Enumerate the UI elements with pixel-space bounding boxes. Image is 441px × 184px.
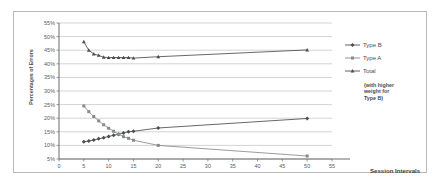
x-tick-label: 15: [123, 163, 143, 169]
chart-plot-frame: 5%10%15%20%25%30%35%40%45%50%55%05101520…: [13, 11, 427, 173]
y-tick-label: 10%: [19, 142, 55, 148]
chart-figure: 5%10%15%20%25%30%35%40%45%50%55%05101520…: [0, 0, 441, 184]
series-type-b: [82, 116, 309, 143]
data-point-marker: [87, 139, 91, 143]
x-tick-label: 35: [223, 163, 243, 169]
y-tick-label: 40%: [19, 61, 55, 67]
series-line: [84, 118, 307, 141]
data-point-marker: [132, 139, 135, 142]
data-point-marker: [112, 133, 116, 137]
x-tick-label: 5: [74, 163, 94, 169]
data-point-marker: [92, 115, 95, 118]
data-point-marker: [82, 104, 85, 107]
legend-marker-icon: [344, 41, 361, 49]
x-axis-title: Session Intervals: [370, 167, 420, 174]
y-tick-label: 45%: [19, 47, 55, 53]
x-tick-label: 30: [198, 163, 218, 169]
series-total: [82, 40, 309, 60]
data-point-marker: [351, 56, 354, 59]
data-point-marker: [306, 155, 309, 158]
data-point-marker: [97, 119, 100, 122]
legend-item-type-b[interactable]: Type B: [344, 38, 441, 51]
data-point-marker: [112, 130, 115, 133]
y-tick-label: 30%: [19, 88, 55, 94]
data-point-marker: [107, 127, 110, 130]
legend-item-type-a[interactable]: Type A: [344, 51, 441, 64]
data-point-marker: [351, 43, 355, 47]
data-point-marker: [87, 110, 90, 113]
legend-label: Type B: [363, 42, 382, 48]
data-point-marker: [82, 140, 86, 144]
data-point-marker: [82, 40, 86, 43]
x-tick-label: 50: [297, 163, 317, 169]
data-point-marker: [305, 116, 309, 120]
legend-label: Total: [363, 68, 376, 74]
y-tick-label: 20%: [19, 115, 55, 121]
y-tick-label: 5%: [19, 156, 55, 162]
data-point-marker: [92, 138, 96, 142]
y-tick-label: 15%: [19, 129, 55, 135]
legend-label: Type A: [363, 55, 381, 61]
x-tick-label: 45: [272, 163, 292, 169]
data-point-marker: [126, 130, 130, 134]
legend-note: (with higherweight forType B): [364, 82, 412, 101]
y-axis-title: Percentages of Errors: [28, 47, 34, 107]
x-tick-label: 55: [322, 163, 342, 169]
x-tick-label: 0: [49, 163, 69, 169]
legend-marker-icon: [344, 67, 361, 75]
data-point-marker: [102, 123, 105, 126]
x-tick-label: 40: [248, 163, 268, 169]
series-line: [84, 106, 307, 156]
y-tick-label: 25%: [19, 102, 55, 108]
y-tick-label: 50%: [19, 34, 55, 40]
legend-note-line: Type B): [364, 95, 412, 101]
data-point-marker: [102, 136, 106, 140]
x-tick-label: 10: [99, 163, 119, 169]
legend-marker-icon: [344, 54, 361, 62]
data-point-marker: [107, 134, 111, 138]
chart-legend: Type BType ATotal(with higherweight forT…: [344, 38, 441, 101]
data-point-marker: [127, 137, 130, 140]
data-point-marker: [122, 135, 125, 138]
data-point-marker: [157, 144, 160, 147]
x-tick-label: 25: [173, 163, 193, 169]
series-type-a: [82, 104, 308, 157]
y-tick-label: 35%: [19, 74, 55, 80]
data-point-marker: [117, 133, 120, 136]
data-point-marker: [97, 137, 101, 141]
legend-item-total[interactable]: Total: [344, 64, 441, 77]
data-point-marker: [131, 129, 135, 133]
y-tick-label: 55%: [19, 20, 55, 26]
data-point-marker: [156, 126, 160, 130]
x-tick-label: 20: [148, 163, 168, 169]
